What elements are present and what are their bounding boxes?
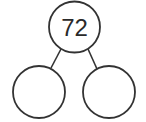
part-node-right[interactable] [83, 66, 135, 118]
part-circle-left[interactable] [13, 66, 65, 118]
part-circle-right[interactable] [83, 66, 135, 118]
connector-right [88, 49, 97, 69]
whole-node: 72 [49, 2, 100, 53]
part-node-left[interactable] [13, 66, 65, 118]
whole-value: 72 [61, 14, 88, 41]
number-bond-diagram: 72 [0, 0, 146, 122]
connector-left [51, 49, 61, 68]
